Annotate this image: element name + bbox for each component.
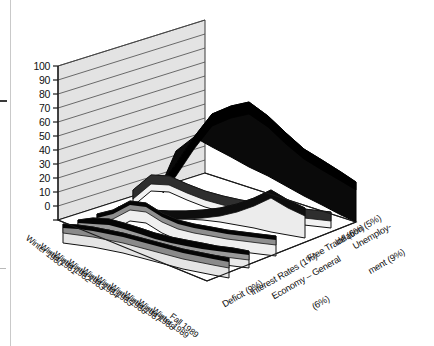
y-tick-label-60: 60 [22, 116, 50, 128]
y-tick-label-80: 80 [22, 88, 50, 100]
y-tick-label-100: 100 [22, 60, 50, 72]
chart-figure: 100 90 80 70 60 50 40 30 20 10 0 Winter … [0, 0, 434, 346]
series-label-unemployment-line1: Unemploy- [352, 222, 394, 252]
y-tick-label-30: 30 [22, 158, 50, 170]
y-tick-label-10: 10 [22, 186, 50, 198]
y-tick-label-50: 50 [22, 130, 50, 142]
series-label-unemployment-line2: ment (9%) [366, 247, 408, 277]
y-tick-label-20: 20 [22, 172, 50, 184]
y-tick-label-0: 0 [22, 200, 50, 212]
y-tick-label-40: 40 [22, 144, 50, 156]
y-tick-label-90: 90 [22, 74, 50, 86]
chart-canvas [0, 0, 434, 346]
y-axis-ticks [53, 66, 58, 220]
y-tick-label-70: 70 [22, 102, 50, 114]
